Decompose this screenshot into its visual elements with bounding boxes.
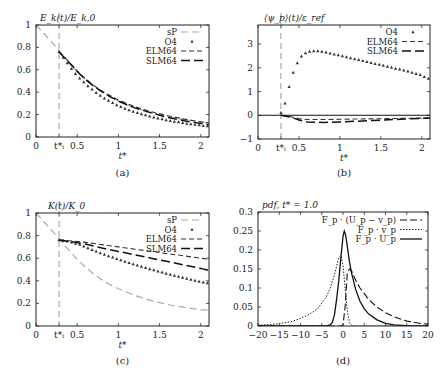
legend-label: ELM64 [146, 234, 177, 244]
o4-marker [144, 266, 147, 269]
plot-frame [258, 25, 430, 139]
series-line-fpupvp [258, 269, 428, 326]
x-tick-label: 20 [422, 330, 434, 340]
panel-caption: (d) [336, 355, 350, 366]
o4-marker [296, 61, 299, 64]
o4-marker [386, 65, 389, 68]
panel-title: pdf, t* = 1.0 [262, 200, 318, 210]
legend: F_p · (U_p − v_p)F_p · v_pF_p · U_p [322, 215, 422, 245]
o4-marker [308, 50, 311, 53]
x-tick-label: 0.5 [70, 330, 85, 340]
figure: 0t*ᵢ0.511.5200.20.40.60.81E_k(t)/E_k,0t*… [0, 0, 443, 377]
series-line-slm64 [59, 240, 209, 271]
o4-marker [177, 120, 180, 123]
o4-marker [341, 54, 344, 57]
y-tick-label: 0.05 [233, 302, 253, 312]
o4-marker [353, 57, 356, 60]
o4-marker [127, 108, 130, 111]
o4-marker [414, 72, 417, 75]
o4-marker [423, 75, 426, 78]
panel-title: ⟨ψ_p⟩(t)/ε_ref [264, 13, 326, 24]
o4-marker [86, 84, 89, 87]
x-tick-label: 2 [419, 143, 425, 153]
panel-title: K(t)/K_0 [47, 201, 86, 212]
y-tick-label: 0.2 [239, 245, 253, 255]
legend-label: O4 [165, 37, 177, 47]
panel-title: E_k(t)/E_k,0 [39, 13, 96, 24]
o4-marker [173, 274, 176, 277]
x-tick-label: 1 [337, 143, 343, 153]
x-tick-label: 1 [116, 141, 122, 151]
x-axis-label: t* [118, 151, 127, 161]
x-tick-label: 0.5 [70, 141, 85, 151]
x-tick-label: 5 [361, 330, 367, 340]
x-axis-label: t* [118, 340, 127, 350]
o4-marker [279, 111, 282, 114]
legend-label: SLM64 [367, 46, 398, 56]
legend-marker-icon [411, 30, 414, 33]
o4-marker [292, 71, 295, 74]
o4-marker [86, 246, 89, 249]
o4-marker [394, 67, 397, 70]
legend-label: sP [167, 27, 177, 37]
y-tick-label: 0.6 [17, 65, 32, 75]
series-line-elm64 [281, 115, 430, 119]
x-tick-label: 1.5 [374, 143, 389, 153]
o4-marker [181, 276, 184, 279]
o4-marker [398, 68, 401, 71]
o4-marker [156, 269, 159, 272]
o4-marker [419, 73, 422, 76]
o4-marker [202, 281, 205, 284]
o4-marker [177, 275, 180, 278]
legend-label: sP [167, 215, 177, 225]
y-tick-label: 0 [247, 110, 253, 120]
series-line-fpvp [258, 256, 428, 326]
o4-marker [136, 111, 139, 114]
y-tick-label: 3 [247, 39, 253, 49]
legend-label: SLM64 [146, 56, 177, 66]
x-tick-label: 0 [340, 330, 346, 340]
o4-marker [119, 258, 122, 261]
o4-marker [140, 265, 143, 268]
o4-marker [160, 271, 163, 274]
o4-marker [189, 278, 192, 281]
o4-marker [90, 248, 93, 251]
o4-marker [111, 101, 114, 104]
o4-marker [160, 117, 163, 120]
y-tick-label: 0 [247, 321, 253, 331]
o4-marker [115, 257, 118, 260]
o4-marker [132, 110, 135, 113]
o4-marker [152, 268, 155, 271]
legend-label: SLM64 [146, 244, 177, 254]
y-tick-label: 0.2 [17, 110, 31, 120]
o4-marker [99, 94, 102, 97]
o4-marker [78, 76, 81, 79]
o4-marker [189, 122, 192, 125]
o4-marker [390, 66, 393, 69]
o4-marker [95, 250, 98, 253]
o4-marker [300, 55, 303, 58]
o4-marker [165, 118, 168, 121]
o4-marker [90, 88, 93, 91]
y-tick-label: 0.6 [17, 253, 32, 263]
o4-marker [193, 279, 196, 282]
panel-caption: (b) [337, 167, 351, 178]
o4-marker [111, 256, 114, 259]
x-tick-label: 0 [33, 330, 39, 340]
o4-marker [127, 261, 130, 264]
legend: sPO4ELM64SLM64 [146, 215, 203, 254]
panel-caption: (c) [116, 355, 130, 366]
x-tick-label: −20 [249, 330, 268, 340]
o4-marker [136, 263, 139, 266]
panel-a-energy-decay: 0t*ᵢ0.511.5200.20.40.60.81E_k(t)/E_k,0t*… [17, 13, 209, 178]
o4-marker [361, 59, 364, 62]
y-tick-label: 2 [247, 63, 253, 73]
o4-marker [140, 112, 143, 115]
o4-marker [378, 63, 381, 66]
x-tick-label: −10 [291, 330, 310, 340]
panel-b-mean-work: 0t*ᵢ0.511.52−10123⟨ψ_p⟩(t)/ε_reft*(b)O4E… [240, 13, 430, 178]
o4-marker [406, 70, 409, 73]
x-tick-label: 2 [198, 141, 204, 151]
o4-marker [173, 120, 176, 123]
legend-label: ELM64 [367, 37, 398, 47]
